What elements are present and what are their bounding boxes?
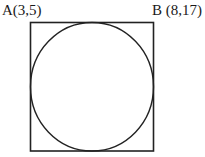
inscribed-circle bbox=[31, 23, 154, 152]
figure-canvas bbox=[0, 0, 205, 157]
